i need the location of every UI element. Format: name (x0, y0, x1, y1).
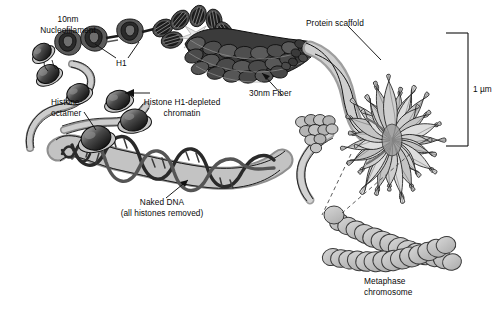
label-protein-scaffold: Protein scaffold (306, 18, 364, 29)
chromatin-packaging-diagram (0, 0, 498, 311)
label-metaphase-line1: Metaphase (364, 276, 412, 287)
label-histone-octamer-line1: Histone (51, 97, 81, 108)
label-30nm-fiber: 30nm Fiber (249, 88, 291, 99)
label-naked-dna: Naked DNA (all histones removed) (92, 197, 232, 218)
label-naked-dna-line2: (all histones removed) (92, 208, 232, 219)
label-nucleofilament-line1: 10nm (18, 14, 118, 25)
label-naked-dna-line1: Naked DNA (92, 197, 232, 208)
label-histone-octamer-line2: octamer (51, 108, 81, 119)
label-metaphase-line2: chromosome (364, 287, 412, 298)
label-histone-octamer: Histone octamer (51, 97, 81, 118)
label-nucleofilament: 10nm Nucleofilament (18, 14, 118, 35)
label-h1: H1 (116, 58, 127, 69)
label-metaphase-chromosome: Metaphase chromosome (364, 276, 412, 297)
label-h1-depleted-line1: Histone H1-depleted (126, 97, 238, 108)
label-h1-depleted-chromatin: Histone H1-depleted chromatin (126, 97, 238, 118)
label-scale-bar: 1 µm (473, 84, 492, 95)
label-h1-depleted-line2: chromatin (126, 108, 238, 119)
label-nucleofilament-line2: Nucleofilament (18, 25, 118, 36)
